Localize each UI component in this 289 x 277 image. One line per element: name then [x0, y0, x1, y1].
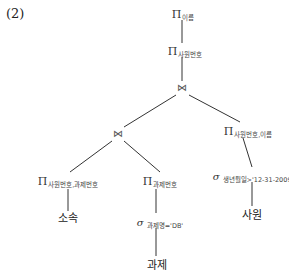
right-selection-node: σ생년월일>'12-31-2009' [213, 167, 289, 184]
edge-topjoin-to-leftjoin [124, 95, 176, 127]
top-projection-node: Π이름 [172, 5, 195, 22]
projection-attrs: 사원번호 [178, 51, 202, 59]
left-join-node: ⋈ [113, 129, 123, 139]
projection-attrs: 이름 [182, 14, 194, 22]
edge-leftjoin-to-llproj [70, 141, 112, 172]
edge-topjoin-to-rightproj [189, 95, 240, 122]
projection-attrs: 사원번호,이름 [234, 131, 272, 139]
top-join-node: ⋈ [177, 83, 187, 93]
second-projection-node: Π사원번호 [168, 42, 203, 59]
relation-task: 과제 [147, 260, 167, 271]
projection-symbol: Π [38, 175, 48, 188]
projection-symbol: Π [168, 45, 178, 58]
projection-symbol: Π [143, 175, 153, 188]
projection-symbol: Π [172, 8, 182, 21]
edge-leftjoin-to-lrproj [124, 141, 160, 172]
edge-rightproj-to-rightselect [243, 138, 252, 167]
relation-affiliation: 소속 [58, 213, 78, 224]
selection-condition: 생년월일>'12-31-2009' [223, 176, 289, 184]
selection-symbol: σ [213, 171, 220, 182]
selection-condition: 과제명='DB' [147, 222, 183, 230]
left-left-projection-node: Π사원번호,과제번호 [38, 172, 99, 189]
left-right-projection-node: Π과제번호 [143, 172, 178, 189]
selection-symbol: σ [137, 217, 144, 228]
projection-attrs: 과제번호 [153, 181, 177, 189]
figure-number: (2) [6, 6, 24, 21]
projection-symbol: Π [224, 125, 234, 138]
right-projection-node: Π사원번호,이름 [224, 122, 273, 139]
task-selection-node: σ과제명='DB' [137, 213, 183, 230]
relation-employee: 사원 [242, 210, 262, 221]
projection-attrs: 사원번호,과제번호 [48, 181, 98, 189]
